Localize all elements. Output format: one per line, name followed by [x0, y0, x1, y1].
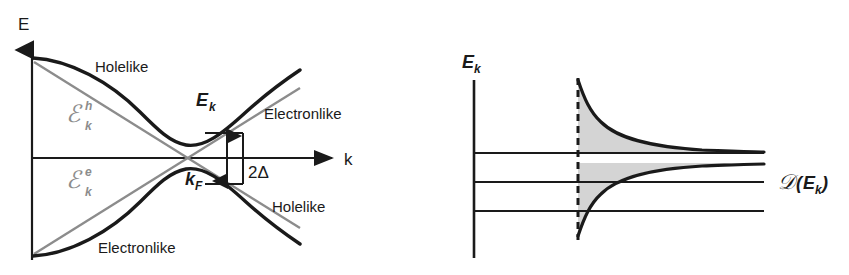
figure-background	[0, 0, 849, 275]
branch-energy-label-base: E	[196, 90, 209, 110]
energy-axis-label: E	[18, 15, 29, 34]
gap-magnitude-label: 2Δ	[248, 163, 269, 182]
electronlike-label-lower: Electronlike	[98, 239, 176, 256]
normal-electron-superscript: e	[85, 165, 92, 179]
fermi-momentum-label-sub: F	[195, 179, 203, 193]
normal-hole-symbol: ℰ	[66, 100, 83, 128]
momentum-axis-label: k	[344, 150, 353, 169]
holelike-label-upper: Holelike	[95, 58, 148, 75]
normal-electron-symbol: ℰ	[66, 166, 83, 194]
electronlike-label-upper: Electronlike	[264, 105, 342, 122]
superconductivity-figure: E k Holelike Electronlike Holelike Elect…	[0, 0, 849, 275]
holelike-label-lower: Holelike	[272, 198, 325, 215]
dos-paren-close: )	[820, 173, 828, 193]
normal-hole-superscript: h	[85, 99, 92, 113]
